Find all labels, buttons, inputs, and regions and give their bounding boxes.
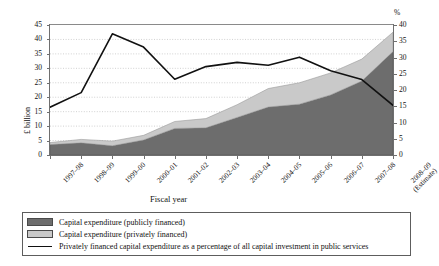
x-axis-category-label: 2000–01: [155, 161, 179, 185]
legend-label-percentage: Privately financed capital expenditure a…: [59, 242, 368, 251]
x-axis-category-label: 2003–04: [249, 161, 273, 185]
right-axis-tick-label: 25: [399, 70, 415, 78]
plot-area: [50, 25, 393, 155]
right-axis-tick-label: 30: [399, 54, 415, 62]
x-axis-category-label: 2006–07: [342, 161, 366, 185]
right-axis-tick: [394, 106, 397, 107]
x-axis-tick: [112, 156, 113, 159]
x-axis-category-label: 2001–02: [186, 161, 210, 185]
x-axis-tick: [393, 156, 394, 159]
x-axis-line: [49, 155, 394, 156]
y-axis-title: £ billion: [23, 86, 32, 156]
legend-item-public: Capital expenditure (publicly financed): [27, 216, 406, 228]
legend-item-private: Capital expenditure (privately financed): [27, 228, 406, 240]
right-axis-tick: [394, 90, 397, 91]
x-axis-tick: [144, 156, 145, 159]
x-axis-category-label: 2002–03: [217, 161, 241, 185]
left-axis-tick-label: 45: [26, 21, 42, 29]
x-axis-category-label: 1997–98: [61, 161, 85, 185]
legend-line-icon: [27, 242, 53, 250]
chart-canvas: [50, 25, 393, 155]
x-axis-tick: [331, 156, 332, 159]
legend-label-private: Capital expenditure (privately financed): [59, 230, 187, 239]
x-axis-tick: [206, 156, 207, 159]
x-axis-tick: [81, 156, 82, 159]
x-axis-category-label: 1998–99: [93, 161, 117, 185]
x-axis-tick: [237, 156, 238, 159]
right-axis-tick-label: 5: [399, 135, 415, 143]
x-axis-tick: [362, 156, 363, 159]
right-axis-tick-label: 0: [399, 151, 415, 159]
right-axis-tick: [394, 58, 397, 59]
x-axis-category-label: 2004–05: [280, 161, 304, 185]
x-axis-tick: [50, 156, 51, 159]
right-axis-tick: [394, 139, 397, 140]
right-axis-unit-label: %: [394, 8, 400, 17]
right-axis-tick: [394, 25, 397, 26]
x-axis-title: Fiscal year: [150, 194, 187, 204]
x-axis-category-label: 2007–08: [373, 161, 397, 185]
right-axis-tick: [394, 155, 397, 156]
legend-label-public: Capital expenditure (publicly financed): [59, 218, 185, 227]
left-axis-tick-label: 40: [26, 35, 42, 43]
right-axis-tick-label: 35: [399, 37, 415, 45]
right-axis-tick-label: 40: [399, 21, 415, 29]
left-axis-tick-label: 35: [26, 50, 42, 58]
x-axis-category-label: 2005–06: [311, 161, 335, 185]
area-public-expenditure: [50, 52, 393, 155]
x-axis-tick: [175, 156, 176, 159]
legend-swatch-private-icon: [27, 230, 53, 238]
right-axis-tick: [394, 123, 397, 124]
x-axis-category-label: 1999–00: [124, 161, 148, 185]
x-axis-tick: [299, 156, 300, 159]
right-axis-tick-label: 15: [399, 102, 415, 110]
right-axis-tick: [394, 74, 397, 75]
x-axis-category-label: 2008–09(Estimate): [406, 161, 439, 194]
right-axis-tick-label: 20: [399, 86, 415, 94]
right-axis-tick: [394, 41, 397, 42]
legend-swatch-public-icon: [27, 218, 53, 226]
chart-legend: Capital expenditure (publicly financed) …: [22, 212, 411, 256]
x-axis-tick: [268, 156, 269, 159]
legend-item-percentage: Privately financed capital expenditure a…: [27, 240, 406, 252]
right-axis-tick-label: 10: [399, 119, 415, 127]
